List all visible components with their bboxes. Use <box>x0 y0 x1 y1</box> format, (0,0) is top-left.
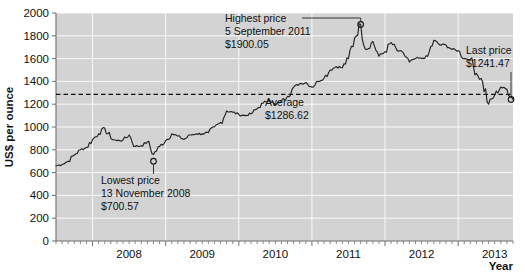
y-axis-ticks <box>52 13 56 241</box>
y-tick-label: 0 <box>43 235 49 247</box>
highest-price-line1: Highest price <box>225 12 286 24</box>
y-tick-label: 200 <box>30 212 49 224</box>
y-tick-label: 1600 <box>23 53 49 65</box>
last-price-line1: Last price <box>466 44 512 56</box>
average-line1: Average <box>265 96 304 108</box>
y-tick-label: 1400 <box>23 75 49 87</box>
x-tick-label: 2011 <box>336 248 361 260</box>
x-axis-title: Year <box>489 260 514 272</box>
y-tick-label: 2000 <box>23 7 49 19</box>
x-tick-label: 2009 <box>189 248 215 260</box>
lowest-price-line1: Lowest price <box>101 174 160 186</box>
highest-price-line3: $1900.05 <box>225 38 269 50</box>
y-tick-label: 600 <box>30 167 49 179</box>
y-tick-label: 400 <box>30 189 49 201</box>
gold-price-chart: 0200400600800100012001400160018002000 20… <box>0 0 525 276</box>
y-tick-label: 1800 <box>23 30 49 42</box>
last-price-line2: $1241.47 <box>466 57 510 69</box>
average-line2: $1286.62 <box>265 109 309 121</box>
x-tick-label: 2013 <box>482 248 508 260</box>
y-axis-tick-labels: 0200400600800100012001400160018002000 <box>23 7 49 247</box>
x-axis-tick-labels: 200820092010201120122013 <box>116 248 507 260</box>
chart-canvas: 0200400600800100012001400160018002000 20… <box>0 0 525 276</box>
lowest-price-line2: 13 November 2008 <box>101 187 190 199</box>
x-tick-label: 2008 <box>116 248 142 260</box>
annotation-average: Average $1286.62 <box>265 96 309 121</box>
y-tick-label: 800 <box>30 144 49 156</box>
annotation-last-price: Last price $1241.47 <box>466 44 512 69</box>
x-tick-label: 2010 <box>263 248 289 260</box>
highest-price-line2: 5 September 2011 <box>225 25 311 37</box>
x-tick-label: 2012 <box>409 248 435 260</box>
lowest-price-line3: $700.57 <box>101 200 139 212</box>
y-axis-title: US$ per ounce <box>3 87 15 168</box>
y-tick-label: 1000 <box>23 121 49 133</box>
y-tick-label: 1200 <box>23 98 49 110</box>
